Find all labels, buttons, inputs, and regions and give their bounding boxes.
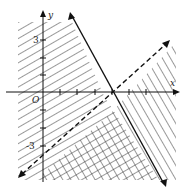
x-axis-arrow-icon [173,89,180,95]
y-axis-arrow-icon [40,10,46,17]
origin-label: O [32,95,40,105]
solid-line-arrow-bottom-icon [160,179,167,187]
dashed-line-arrow-top-icon [162,40,170,48]
y-axis-label: y [47,10,54,20]
y-tick-label-neg3: -3 [26,141,35,151]
y-tick-label-3: 3 [33,35,39,45]
x-axis-label: x [170,78,175,88]
inequality-diagram: x y O 3 -3 [0,0,184,191]
